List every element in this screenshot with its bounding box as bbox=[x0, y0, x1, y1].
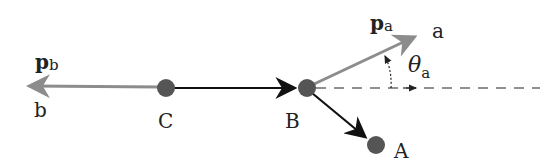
node-b bbox=[298, 79, 316, 97]
node-c-label: C bbox=[158, 109, 173, 133]
vector-pa-arrow bbox=[312, 38, 412, 85]
vector-pb-main: p bbox=[35, 50, 49, 74]
vector-pa-main: p bbox=[370, 11, 384, 35]
node-a bbox=[367, 136, 385, 154]
kinematic-diagram: C B A b a pb pa θa bbox=[0, 0, 544, 167]
edge-b-to-a bbox=[312, 93, 364, 136]
angle-theta-main: θ bbox=[408, 52, 421, 77]
vector-pa-sub: a bbox=[384, 17, 393, 35]
angle-arc bbox=[385, 56, 391, 88]
node-b-label: B bbox=[285, 109, 300, 133]
vector-pb-arrow bbox=[32, 86, 160, 87]
vector-pb-label: pb bbox=[35, 50, 59, 74]
vector-pa-label: pa bbox=[370, 11, 393, 35]
endpoint-b-label: b bbox=[34, 98, 47, 122]
node-a-label: A bbox=[393, 139, 409, 163]
vector-pb-sub: b bbox=[49, 56, 59, 74]
endpoint-a-label: a bbox=[432, 19, 444, 43]
angle-theta-label: θa bbox=[408, 52, 430, 82]
node-c bbox=[157, 79, 175, 97]
angle-theta-sub: a bbox=[421, 64, 430, 82]
